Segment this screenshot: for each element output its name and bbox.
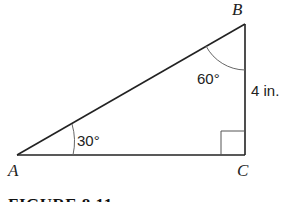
vertex-label-c: C <box>237 161 249 180</box>
triangle-diagram: A B C 30° 60° 4 in. FIGURE 8.11 <box>0 0 290 202</box>
angle-label-b: 60° <box>197 70 220 87</box>
angle-label-a: 30° <box>77 132 100 149</box>
angle-arc-a <box>72 124 75 155</box>
right-angle-marker <box>221 131 245 155</box>
side-label-bc: 4 in. <box>251 82 279 99</box>
vertex-label-b: B <box>232 0 243 19</box>
angle-arc-b <box>206 46 245 70</box>
vertex-label-a: A <box>7 161 19 180</box>
figure-caption: FIGURE 8.11 <box>8 195 113 202</box>
side-ab <box>17 24 245 155</box>
